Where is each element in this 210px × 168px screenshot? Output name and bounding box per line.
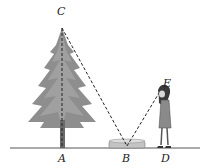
label-C: C	[57, 6, 65, 17]
label-E: E	[163, 78, 171, 89]
diagram-canvas	[0, 0, 210, 168]
sight-line-BE	[127, 93, 159, 146]
label-B: B	[122, 153, 130, 164]
mirror-icon	[109, 139, 145, 148]
label-D: D	[161, 153, 170, 164]
label-A: A	[58, 153, 66, 164]
person-icon	[157, 85, 171, 148]
